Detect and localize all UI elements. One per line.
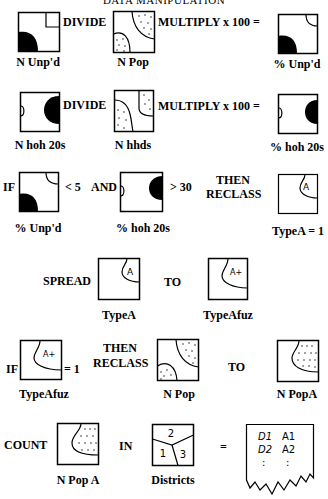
map-n-pop <box>157 339 199 381</box>
label-pct-hoh-20s: % hoh 20s <box>116 222 170 234</box>
operator-equals: = <box>220 441 227 453</box>
label-typea: TypeA <box>102 309 136 321</box>
keyword-if: IF <box>6 363 18 375</box>
label-districts: Districts <box>151 474 194 486</box>
map-typea: A <box>98 258 140 300</box>
svg-text:A2: A2 <box>282 444 295 455</box>
keyword-to: TO <box>228 361 245 373</box>
map-n-pop <box>113 11 155 53</box>
svg-text:A1: A1 <box>282 431 295 442</box>
keyword-then: THEN <box>103 342 137 354</box>
operator-divide: DIVIDE <box>63 16 106 28</box>
operator-divide: DIVIDE <box>63 99 106 111</box>
keyword-to: TO <box>164 276 181 288</box>
condition-equals: = 1 <box>64 363 80 375</box>
keyword-and: AND <box>91 181 117 193</box>
label-n-popa: N PopA <box>277 388 317 400</box>
label-pct-unpd: % Unp'd <box>273 58 320 70</box>
svg-text:3: 3 <box>180 449 186 460</box>
map-n-pop-a <box>57 423 99 465</box>
condition-greater-than: > 30 <box>170 181 192 193</box>
keyword-reclass: RECLASS <box>206 188 261 200</box>
svg-text:1: 1 <box>160 448 166 459</box>
svg-text::: : <box>262 457 265 468</box>
keyword-in: IN <box>119 440 132 452</box>
label-pct-unpd: % Unp'd <box>14 222 61 234</box>
svg-text:D1: D1 <box>258 431 272 442</box>
keyword-spread: SPREAD <box>43 275 91 287</box>
svg-text::: : <box>286 457 289 468</box>
svg-text:D2: D2 <box>258 444 272 455</box>
label-n-hhds: N hhds <box>115 139 151 151</box>
map-n-popa <box>277 340 319 382</box>
condition-less-than: < 5 <box>65 181 81 193</box>
map-pct-hoh-20s <box>278 94 318 134</box>
map-typeafuz: A+ <box>20 340 62 380</box>
svg-text:2: 2 <box>168 428 174 439</box>
map-pct-unpd <box>19 172 59 212</box>
map-n-unpd <box>18 12 60 52</box>
keyword-if: IF <box>3 181 15 193</box>
map-pct-hoh-20s <box>120 172 163 212</box>
label-typeafuz: TypeAfuz <box>203 309 253 321</box>
results-table: D1 A1 D2 A2 : : <box>246 424 314 498</box>
label-typea-eq-1: TypeA = 1 <box>272 225 324 237</box>
svg-text:A: A <box>127 267 134 277</box>
label-n-pop: N Pop <box>163 388 195 400</box>
map-typea: A <box>278 174 318 214</box>
label-typeafuz: TypeAfuz <box>19 388 69 400</box>
map-n-hoh-20s <box>20 92 60 132</box>
operator-multiply: MULTIPLY x 100 = <box>158 100 260 112</box>
map-n-hhds <box>114 90 154 132</box>
label-n-pop-a: N Pop A <box>57 474 100 486</box>
label-n-unpd: N Unp'd <box>16 56 60 68</box>
map-pct-unpd <box>278 14 318 54</box>
svg-text:A: A <box>303 182 310 192</box>
operator-multiply: MULTIPLY x 100 = <box>158 16 260 28</box>
label-n-hoh-20s: N hoh 20s <box>15 139 66 151</box>
keyword-then: THEN <box>216 174 250 186</box>
map-typeafuz: A+ <box>208 258 248 300</box>
map-districts: 2 1 3 <box>152 424 194 466</box>
keyword-reclass: RECLASS <box>93 357 148 369</box>
diagram-title: DATA MANIPULATION <box>0 0 328 6</box>
svg-text:A+: A+ <box>230 268 242 277</box>
svg-text:A+: A+ <box>43 350 55 359</box>
label-pct-hoh-20s: % hoh 20s <box>270 141 324 153</box>
label-n-pop: N Pop <box>117 56 149 68</box>
keyword-count: COUNT <box>4 439 47 451</box>
